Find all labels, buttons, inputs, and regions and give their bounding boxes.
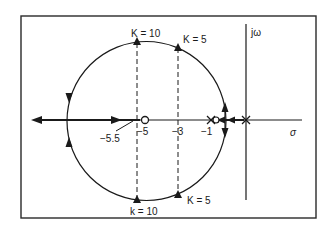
breakaway-leader-line — [116, 121, 133, 131]
arrow-left-icon — [227, 117, 235, 124]
arrow-up-icon — [66, 137, 73, 147]
gain-label-bottom-k5: K = 5 — [187, 195, 211, 206]
gain-label-bottom-k10: k = 10 — [130, 206, 158, 217]
diagram-frame — [21, 16, 316, 218]
root-locus-diagram: jω σ K = 10 K = 5 k = 10 K = 5 −5 −3 −1 — [0, 0, 330, 233]
imaginary-axis-label: jω — [250, 27, 261, 38]
tick-label-neg3: −3 — [172, 126, 184, 137]
arrow-left-icon — [31, 116, 42, 124]
tick-label-neg1: −1 — [201, 126, 213, 137]
gain-label-top-k10: K = 10 — [131, 28, 161, 39]
real-axis-label: σ — [290, 127, 297, 138]
gain-marker-bottom-k5 — [174, 190, 182, 198]
breakaway-label: −5.5 — [100, 133, 120, 144]
arrow-down-icon — [66, 93, 73, 103]
arrow-right-icon — [111, 116, 122, 124]
tick-label-neg5: −5 — [137, 126, 149, 137]
gain-label-top-k5: K = 5 — [183, 34, 207, 45]
zero-marker-neg5 — [142, 117, 149, 124]
